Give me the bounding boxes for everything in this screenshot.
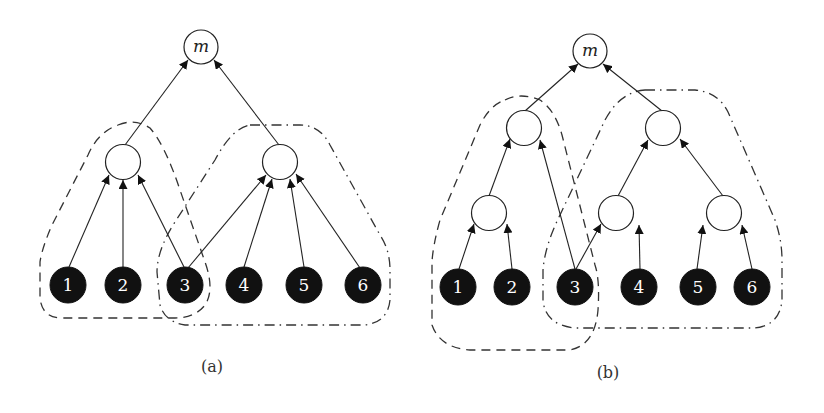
svg-text:5: 5 (299, 275, 310, 295)
leaf-node-b-2: 2 (494, 269, 530, 305)
svg-text:3: 3 (570, 277, 581, 297)
panel-b: m 1 2 3 4 5 6 (b) (432, 34, 782, 382)
leaf-node-b-5: 5 (680, 269, 716, 305)
inner-node-b-lower-right (707, 196, 742, 231)
leaf-node-a-6: 6 (345, 267, 381, 303)
inner-node-a-left (106, 145, 141, 180)
leaf-node-b-1: 1 (440, 269, 476, 305)
leaf-node-a-3: 3 (167, 267, 203, 303)
edges-b (459, 64, 752, 269)
svg-text:4: 4 (239, 275, 250, 295)
panel-a: m 1 2 3 4 5 6 (a) (40, 30, 390, 376)
svg-text:5: 5 (693, 277, 704, 297)
diagram-canvas: m 1 2 3 4 5 6 (a) (0, 0, 824, 413)
leaf-node-b-6: 6 (734, 269, 770, 305)
root-node-a: m (184, 30, 218, 64)
svg-text:4: 4 (634, 277, 645, 297)
svg-text:1: 1 (453, 277, 464, 297)
leaf-node-b-3: 3 (557, 269, 593, 305)
root-label: m (582, 40, 598, 60)
leaf-node-a-2: 2 (105, 267, 141, 303)
caption-b: (b) (597, 363, 620, 382)
inner-node-b-upper-right (646, 111, 681, 146)
inner-node-b-upper-left (507, 111, 542, 146)
svg-text:3: 3 (180, 275, 191, 295)
inner-node-b-lower-left (472, 196, 507, 231)
inner-node-b-lower-mid (599, 196, 634, 231)
svg-text:6: 6 (747, 277, 758, 297)
leaf-node-b-4: 4 (621, 269, 657, 305)
svg-text:1: 1 (63, 275, 74, 295)
leaf-node-a-5: 5 (286, 267, 322, 303)
caption-a: (a) (201, 357, 223, 376)
root-node-b: m (573, 34, 607, 68)
root-label: m (193, 36, 209, 56)
leaf-node-a-4: 4 (226, 267, 262, 303)
svg-text:2: 2 (507, 277, 518, 297)
leaf-node-a-1: 1 (50, 267, 86, 303)
svg-text:2: 2 (118, 275, 129, 295)
svg-text:6: 6 (358, 275, 369, 295)
inner-node-a-right (263, 145, 298, 180)
